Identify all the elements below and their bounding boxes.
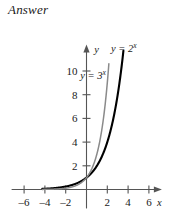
x-tick-label: –4	[38, 196, 51, 208]
x-tick-label: 4	[125, 196, 131, 208]
axes	[12, 44, 162, 208]
curve-label-base: y = 3	[79, 70, 102, 81]
y-tick-label: 6	[72, 112, 78, 124]
x-axis-arrow	[154, 186, 162, 192]
y-tick-label: 8	[72, 89, 78, 101]
y-axis-arrow	[83, 44, 89, 52]
y-tick-label: 10	[67, 65, 79, 77]
x-axis-label: x	[156, 197, 162, 208]
exponential-functions-plot: –6–4–2246246810xyy = 2xy = 3x	[0, 0, 186, 221]
axis-ticks: –6–4–2246246810	[18, 65, 153, 208]
y-axis-label: y	[93, 44, 99, 55]
x-tick-label: –6	[18, 196, 31, 208]
y-tick-label: 2	[72, 160, 78, 172]
answer-figure: Answer –6–4–2246246810xyy = 2xy = 3x	[0, 0, 186, 221]
curve-label-exponent: x	[102, 68, 107, 77]
y-tick-label: 4	[72, 136, 78, 148]
x-tick-label: 6	[146, 196, 152, 208]
x-tick-label: –2	[59, 196, 71, 208]
curve-label: y = 2x	[110, 41, 137, 54]
x-tick-label: 2	[105, 196, 111, 208]
curve-label-base: y = 2	[110, 43, 134, 54]
curve-label: y = 3x	[79, 68, 106, 81]
curve-label-exponent: x	[132, 41, 137, 50]
